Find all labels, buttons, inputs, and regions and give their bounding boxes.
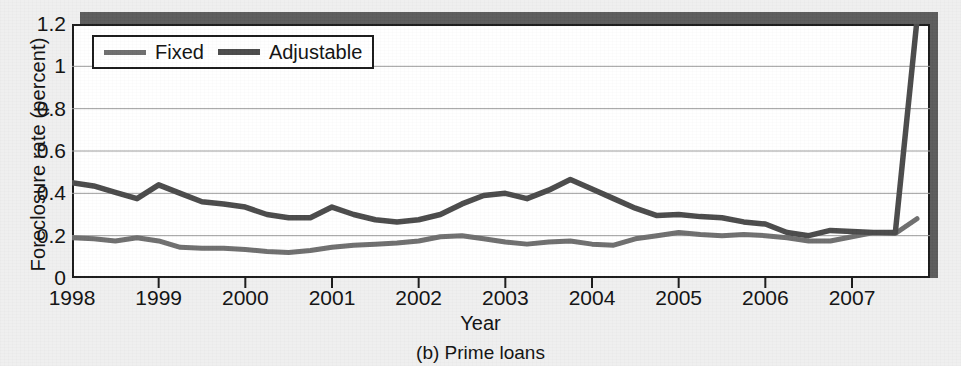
y-tick-label: 0.6 — [20, 140, 66, 161]
x-tick-label: 2007 — [792, 286, 912, 310]
y-tick-label: 0.4 — [20, 182, 66, 203]
y-tick-label: 0.2 — [20, 225, 66, 246]
y-tick-label: 0 — [20, 267, 66, 288]
x-axis-title: Year — [0, 312, 961, 335]
y-tick-label: 0.8 — [20, 98, 66, 119]
legend-label-adjustable: Adjustable — [269, 42, 362, 62]
legend-swatch-adjustable — [218, 49, 260, 55]
legend-entry-adjustable: Adjustable — [218, 42, 362, 62]
chart-figure: Fixed Adjustable Foreclosure rate (perce… — [0, 0, 961, 366]
y-tick-label: 1.2 — [20, 13, 66, 34]
legend-label-fixed: Fixed — [155, 42, 204, 62]
legend-entry-fixed: Fixed — [104, 42, 204, 62]
y-tick-label: 1 — [20, 55, 66, 76]
gridlines — [72, 66, 930, 235]
figure-caption: (b) Prime loans — [0, 342, 961, 364]
chart-legend: Fixed Adjustable — [92, 35, 374, 69]
legend-swatch-fixed — [104, 50, 146, 55]
